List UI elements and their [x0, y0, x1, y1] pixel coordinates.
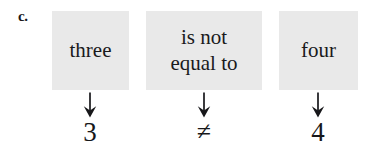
phrase-box-2: is not equal to — [146, 11, 262, 90]
phrase-text-1: three — [66, 38, 116, 63]
translation-diagram: three 3 is not equal to ≠ four — [0, 0, 366, 158]
symbol-3: 4 — [288, 119, 348, 146]
phrase-box-1: three — [52, 11, 129, 90]
figure-canvas: c. three 3 is not equal to ≠ four — [0, 0, 366, 158]
down-arrow-icon-1 — [78, 92, 102, 118]
symbol-1: 3 — [60, 119, 120, 146]
phrase-text-3: four — [297, 38, 340, 63]
symbol-2: ≠ — [174, 119, 234, 145]
phrase-text-2: is not equal to — [166, 25, 241, 76]
phrase-box-3: four — [279, 11, 358, 90]
down-arrow-icon-3 — [306, 92, 330, 118]
down-arrow-icon-2 — [192, 92, 216, 118]
